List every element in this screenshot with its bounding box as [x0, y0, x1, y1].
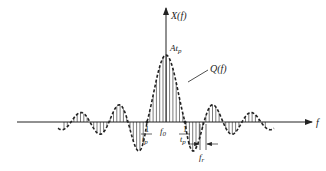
left-zero-dot	[146, 121, 149, 124]
right-zero-dot	[184, 121, 187, 124]
svg-text:fr: fr	[199, 152, 205, 164]
center-frequency-label: f0	[160, 126, 167, 138]
spectrum-diagram: X(f) f Atp Q(f) f0 1 tp 1 tp fr	[0, 0, 326, 171]
curve-label-leader	[188, 70, 208, 82]
peak-label: Atp	[169, 43, 182, 55]
curve-label: Q(f)	[210, 63, 227, 75]
left-zero-label: 1 tp	[141, 125, 152, 146]
svg-text:1: 1	[145, 125, 149, 134]
svg-text:1: 1	[183, 125, 187, 134]
x-axis-label: f	[316, 117, 320, 128]
y-axis-label: X(f)	[170, 10, 187, 22]
svg-text:tp: tp	[180, 135, 186, 146]
